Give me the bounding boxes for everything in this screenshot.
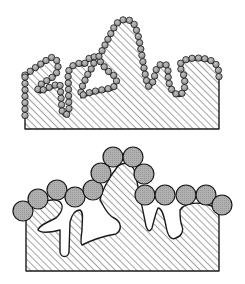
- small-sphere: [216, 73, 222, 79]
- small-sphere: [22, 106, 28, 112]
- small-sphere: [57, 89, 63, 95]
- small-sphere: [138, 46, 144, 52]
- small-sphere: [166, 80, 172, 86]
- small-sphere: [136, 40, 142, 46]
- large-sphere: [176, 185, 196, 205]
- small-sphere: [157, 62, 163, 68]
- small-sphere: [22, 80, 28, 86]
- small-sphere: [22, 100, 28, 106]
- small-sphere: [195, 55, 201, 61]
- bottom-panel: [13, 147, 232, 271]
- small-sphere: [22, 87, 28, 93]
- small-sphere: [213, 61, 219, 67]
- small-sphere: [76, 60, 82, 66]
- small-sphere: [181, 84, 187, 90]
- small-sphere: [58, 95, 64, 101]
- small-sphere: [189, 55, 195, 61]
- small-sphere: [80, 92, 86, 98]
- small-sphere: [142, 71, 148, 77]
- small-sphere: [65, 80, 71, 86]
- large-sphere: [65, 187, 85, 207]
- figure-canvas: Hatched substrate with rough, re-entrant…: [0, 0, 245, 284]
- small-sphere: [54, 57, 60, 63]
- small-sphere: [65, 73, 71, 79]
- large-sphere: [134, 164, 154, 184]
- small-sphere: [22, 93, 28, 99]
- large-sphere: [123, 147, 143, 167]
- small-sphere: [182, 78, 188, 84]
- large-sphere: [103, 147, 123, 167]
- small-sphere: [151, 73, 157, 79]
- small-sphere: [65, 86, 71, 92]
- small-sphere: [92, 88, 98, 94]
- small-sphere: [65, 93, 71, 99]
- large-sphere: [28, 189, 48, 209]
- small-sphere: [86, 90, 92, 96]
- top-panel: [22, 17, 222, 129]
- small-sphere: [131, 21, 137, 27]
- large-sphere: [212, 195, 232, 215]
- small-sphere: [139, 52, 145, 58]
- small-sphere: [79, 83, 85, 89]
- small-sphere: [135, 33, 141, 39]
- small-sphere: [215, 67, 221, 73]
- small-sphere: [173, 91, 179, 97]
- large-sphere: [155, 185, 175, 205]
- small-sphere: [57, 82, 63, 88]
- bottom-substrate: [26, 163, 219, 271]
- small-sphere: [183, 57, 189, 63]
- small-sphere: [99, 87, 105, 93]
- small-sphere: [22, 74, 28, 80]
- small-sphere: [58, 102, 64, 108]
- small-sphere: [120, 17, 126, 23]
- small-sphere: [66, 99, 72, 105]
- small-sphere: [70, 62, 76, 68]
- small-sphere: [140, 59, 146, 65]
- small-sphere: [165, 74, 171, 80]
- small-sphere: [133, 27, 139, 33]
- large-sphere: [47, 180, 67, 200]
- small-sphere: [66, 105, 72, 111]
- small-sphere: [82, 77, 88, 83]
- small-sphere: [46, 84, 52, 90]
- small-sphere: [22, 112, 28, 118]
- diagram-svg: [0, 0, 245, 284]
- small-sphere: [141, 65, 147, 71]
- small-sphere: [40, 87, 46, 93]
- small-sphere: [202, 56, 208, 62]
- large-sphere: [135, 185, 155, 205]
- small-sphere: [150, 79, 156, 85]
- small-sphere: [55, 63, 61, 69]
- small-sphere: [85, 71, 91, 77]
- small-sphere: [165, 68, 171, 74]
